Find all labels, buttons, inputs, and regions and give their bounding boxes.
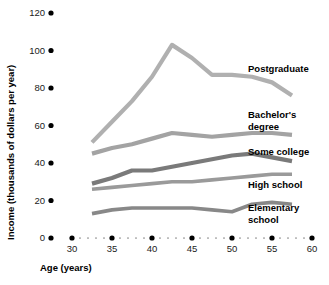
x-tick-dot xyxy=(269,235,274,240)
x-axis-minor-dot xyxy=(279,237,281,239)
series-label-elementary-school: Elementary xyxy=(248,202,300,213)
y-tick-label: 100 xyxy=(29,45,45,56)
x-axis-minor-dot xyxy=(287,237,289,239)
x-tick-label: 35 xyxy=(107,243,118,254)
x-tick-label: 30 xyxy=(67,243,78,254)
x-axis-minor-dot xyxy=(135,237,137,239)
y-tick-dot xyxy=(48,198,53,203)
y-tick-dot xyxy=(48,10,53,15)
series-label-some-college: Some college xyxy=(248,146,309,157)
x-axis-minor-dot xyxy=(143,237,145,239)
x-axis-minor-dot xyxy=(127,237,129,239)
x-axis-minor-dot xyxy=(263,237,265,239)
y-tick-label: 120 xyxy=(29,7,45,18)
income-by-education-line-chart: Income (thousands of dollars per year) 1… xyxy=(0,0,329,285)
x-tick-label: 45 xyxy=(187,243,198,254)
y-tick-label: 80 xyxy=(34,82,45,93)
x-axis-minor-dot xyxy=(95,237,97,239)
x-axis-minor-dot xyxy=(239,237,241,239)
x-axis-minor-dot xyxy=(223,237,225,239)
x-axis-minor-dot xyxy=(255,237,257,239)
series-label-postgraduate: Postgraduate xyxy=(248,63,309,74)
y-tick-dot xyxy=(48,48,53,53)
x-axis-minor-dot xyxy=(207,237,209,239)
x-tick-dot xyxy=(309,235,314,240)
x-axis-minor-dot xyxy=(199,237,201,239)
x-axis-title: Age (years) xyxy=(40,262,92,273)
x-tick-label: 60 xyxy=(307,243,318,254)
y-tick-label: 60 xyxy=(34,120,45,131)
x-tick-label: 55 xyxy=(267,243,278,254)
y-tick-label: 20 xyxy=(34,195,45,206)
x-axis-minor-dot xyxy=(167,237,169,239)
y-tick-dot xyxy=(48,85,53,90)
y-axis-title-text: Income (thousands of dollars per year) xyxy=(5,65,16,240)
y-tick-label: 40 xyxy=(34,157,45,168)
series-label-elementary-school-line2: school xyxy=(248,214,279,225)
x-tick-label: 40 xyxy=(147,243,158,254)
x-axis-minor-dot xyxy=(159,237,161,239)
x-tick-dot xyxy=(229,235,234,240)
x-tick-dot xyxy=(109,235,114,240)
x-axis-minor-dot xyxy=(303,237,305,239)
y-axis-title: Income (thousands of dollars per year) xyxy=(5,65,16,240)
x-axis-minor-dot xyxy=(87,237,89,239)
y-axis-ticks: 120100806040200 xyxy=(29,7,53,243)
x-axis-minor-dot xyxy=(79,237,81,239)
y-tick-dot xyxy=(48,160,53,165)
x-axis-minor-dot xyxy=(119,237,121,239)
series-label-bachelor-s-degree-line2: degree xyxy=(248,121,279,132)
x-tick-dot xyxy=(69,235,74,240)
x-tick-dot xyxy=(189,235,194,240)
y-tick-label: 0 xyxy=(40,232,45,243)
x-tick-dot xyxy=(149,235,154,240)
series-label-bachelor-s-degree: Bachelor's xyxy=(248,109,296,120)
x-tick-label: 50 xyxy=(227,243,238,254)
x-axis-minor-dot xyxy=(103,237,105,239)
chart-canvas: Income (thousands of dollars per year) 1… xyxy=(0,0,329,285)
x-axis-minor-dot xyxy=(175,237,177,239)
x-axis-minor-dot xyxy=(247,237,249,239)
x-axis-title-text: Age (years) xyxy=(40,262,92,273)
series-label-high-school: High school xyxy=(248,179,302,190)
x-axis-minor-dot xyxy=(215,237,217,239)
x-axis-minor-dot xyxy=(295,237,297,239)
y-tick-dot xyxy=(48,235,53,240)
x-axis-minor-dot xyxy=(183,237,185,239)
y-tick-dot xyxy=(48,123,53,128)
